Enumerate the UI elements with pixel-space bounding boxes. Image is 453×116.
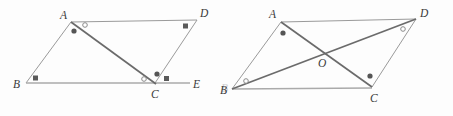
vertex-label-D-right: D: [419, 7, 429, 19]
vertex-label-E-left: E: [192, 78, 200, 90]
diagram-canvas: A B C D E B A B C D: [0, 0, 453, 116]
angle-mark-A-circle-left: [83, 23, 88, 28]
segment-BD-diagonal-right: [232, 19, 416, 89]
vertex-label-B-right: B: [220, 84, 227, 96]
segment-AC-diagonal-left: [71, 22, 156, 84]
angle-mark-D-circle-right: [401, 27, 406, 32]
figure-right: A B C D O: [220, 7, 429, 104]
segment-AD-left: [71, 20, 197, 22]
angle-mark-D-square-left: [183, 24, 188, 29]
segment-DC-right: [372, 19, 416, 87]
vertex-label-A-left: A: [59, 9, 68, 21]
segment-AC-diagonal-right: [281, 22, 372, 87]
segment-CD-left: [155, 20, 197, 83]
vertex-label-C-right: C: [370, 92, 378, 104]
vertex-label-C-left: C: [151, 88, 159, 100]
vertex-label-B-left: B: [13, 78, 20, 90]
segment-BC-base-right: [232, 88, 372, 89]
angle-mark-B-circle-right: [244, 79, 249, 84]
vertex-label-O-right: O: [318, 57, 327, 69]
angle-mark-C-square-left: [164, 76, 169, 81]
angle-mark-A-dot-right: [280, 30, 285, 35]
segment-AD-right: [281, 19, 416, 22]
angle-mark-C-circle-left: [142, 77, 147, 82]
angle-mark-A-dot-left: [71, 28, 76, 33]
angle-mark-C-dot-left: [154, 71, 159, 76]
angle-mark-C-dot-right: [367, 73, 372, 78]
angle-mark-B-square-left: [33, 76, 38, 81]
vertex-label-A-right: A: [268, 8, 277, 20]
vertex-label-D-left: D: [199, 7, 209, 19]
segment-AB-left: [26, 22, 71, 83]
figure-left: A B C D E: [13, 7, 209, 100]
diagram-svg: A B C D E B A B C D: [0, 0, 453, 116]
